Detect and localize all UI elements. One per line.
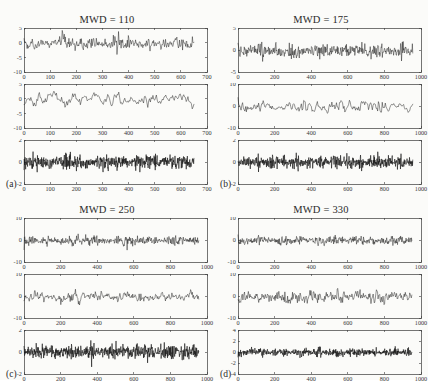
x-tick-label: 600 [343, 263, 352, 270]
data-trace [24, 152, 194, 173]
x-tick-label: 0 [22, 319, 25, 326]
x-tick-label: 600 [343, 129, 352, 136]
y-tick-label: 2 [19, 329, 22, 333]
x-tick-label: 100 [46, 129, 55, 136]
x-tick-label: 200 [56, 319, 65, 326]
y-tick-label: 0 [19, 39, 22, 46]
x-tick-label: 600 [176, 73, 185, 80]
data-trace [24, 289, 199, 305]
panel-c: MWD = 250(c)02004006008001000100-1002004… [0, 190, 214, 380]
y-tick-label: -2 [231, 180, 236, 187]
y-tick-label: 10 [230, 83, 236, 87]
y-tick-label: 0 [233, 102, 236, 109]
x-tick-label: 200 [56, 263, 65, 270]
subplot-c-1: 02004006008001000100-10 [0, 217, 214, 275]
x-tick-label: 0 [236, 319, 239, 326]
x-tick-label: 1000 [415, 375, 427, 382]
subplot-d-3: 02004006008001000420-2-4 [214, 329, 428, 385]
x-tick-label: 400 [93, 375, 102, 382]
x-tick-label: 500 [150, 129, 159, 136]
x-tick-label: 500 [150, 73, 159, 80]
y-tick-label: 0 [19, 292, 22, 299]
data-trace [24, 91, 194, 109]
x-tick-label: 400 [307, 375, 316, 382]
x-tick-label: 800 [166, 263, 175, 270]
x-tick-label: 0 [236, 73, 239, 80]
data-trace [238, 98, 413, 114]
x-tick-label: 800 [380, 319, 389, 326]
x-tick-label: 0 [22, 375, 25, 382]
data-trace [238, 346, 412, 358]
x-tick-label: 600 [343, 375, 352, 382]
y-tick-label: 2 [19, 139, 22, 143]
data-trace [238, 152, 413, 172]
x-tick-label: 0 [236, 129, 239, 136]
x-tick-label: 0 [22, 129, 25, 136]
x-tick-label: 400 [307, 263, 316, 270]
x-tick-label: 600 [129, 375, 138, 382]
y-tick-label: 0 [233, 236, 236, 243]
subplot-a-2: 010020030040050060070050-5-10 [0, 83, 214, 141]
subplot-d-1: 02004006008001000100-10 [214, 217, 428, 275]
y-tick-label: 5 [19, 27, 22, 31]
y-tick-label: 0 [233, 46, 236, 53]
y-tick-label: 0 [19, 348, 22, 355]
x-tick-label: 1000 [415, 319, 427, 326]
x-tick-label: 300 [98, 73, 107, 80]
y-tick-label: 0 [19, 158, 22, 165]
x-tick-label: 1000 [415, 129, 427, 136]
x-tick-label: 200 [270, 263, 279, 270]
x-tick-label: 600 [176, 129, 185, 136]
y-tick-label: -5 [17, 54, 22, 61]
x-tick-label: 800 [380, 129, 389, 136]
subplot-a-1: 010020030040050060070050-5-10 [0, 27, 214, 85]
panel-title-d: MWD = 330 [214, 204, 428, 215]
subplot-c-3: 0200400600800100020-2 [0, 329, 214, 385]
x-tick-label: 400 [307, 319, 316, 326]
y-tick-label: -10 [14, 68, 22, 75]
subplot-b-1: 0200400600800100050-5 [214, 27, 428, 85]
y-tick-label: 10 [16, 273, 22, 277]
y-tick-label: -5 [17, 110, 22, 117]
x-tick-label: 1000 [201, 375, 213, 382]
x-tick-label: 1000 [201, 263, 213, 270]
x-tick-label: 300 [98, 129, 107, 136]
y-tick-label: 0 [19, 236, 22, 243]
panel-d: MWD = 330(d)02004006008001000100-1002004… [214, 190, 428, 380]
y-tick-label: -10 [14, 314, 22, 321]
subplot-c-2: 02004006008001000100-10 [0, 273, 214, 331]
panel-a: MWD = 110(a)010020030040050060070050-5-1… [0, 0, 214, 190]
y-tick-label: 10 [230, 273, 236, 277]
x-tick-label: 400 [307, 73, 316, 80]
y-tick-label: -10 [228, 124, 236, 131]
y-tick-label: -4 [231, 370, 236, 377]
y-tick-label: 0 [19, 95, 22, 102]
panel-b: MWD = 175(b)0200400600800100050-50200400… [214, 0, 428, 190]
x-tick-label: 400 [307, 129, 316, 136]
subplot-b-2: 02004006008001000100-10 [214, 83, 428, 141]
data-trace [238, 41, 413, 61]
subplot-a-3: 010020030040050060070020-2 [0, 139, 214, 197]
x-tick-label: 0 [22, 263, 25, 270]
x-tick-label: 200 [270, 375, 279, 382]
y-tick-label: -10 [14, 258, 22, 265]
x-tick-label: 800 [166, 375, 175, 382]
subplot-b-3: 0200400600800100020-2 [214, 139, 428, 197]
data-trace [238, 235, 412, 246]
y-tick-label: 2 [233, 139, 236, 143]
x-tick-label: 400 [124, 73, 133, 80]
x-tick-label: 200 [72, 129, 81, 136]
y-tick-label: -5 [231, 68, 236, 75]
x-tick-label: 700 [202, 129, 211, 136]
x-tick-label: 600 [343, 73, 352, 80]
subplot-d-2: 02004006008001000100-10 [214, 273, 428, 331]
x-tick-label: 800 [380, 73, 389, 80]
panel-title-c: MWD = 250 [0, 204, 214, 215]
x-tick-label: 600 [343, 319, 352, 326]
x-tick-label: 100 [46, 73, 55, 80]
x-tick-label: 200 [72, 73, 81, 80]
x-tick-label: 800 [380, 263, 389, 270]
x-tick-label: 200 [270, 73, 279, 80]
data-trace [238, 288, 412, 304]
x-tick-label: 200 [270, 129, 279, 136]
